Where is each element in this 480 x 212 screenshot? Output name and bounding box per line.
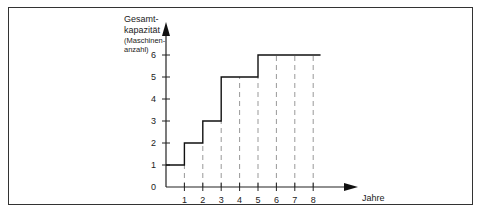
y-tick-label-6: 6 [151, 50, 156, 60]
capacity-step-path [166, 55, 321, 165]
axes [162, 22, 358, 191]
x-tick-label-3: 3 [219, 195, 224, 205]
y-tick-label-1: 1 [151, 160, 156, 170]
y-tick-label-4: 4 [151, 94, 156, 104]
capacity-step-line [166, 55, 321, 165]
x-tick-label-5: 5 [255, 195, 260, 205]
x-tick-label-2: 2 [200, 195, 205, 205]
x-axis-title: Jahre [362, 193, 385, 203]
x-tick-label-6: 6 [274, 195, 279, 205]
x-tick-label-4: 4 [237, 195, 242, 205]
x-tick-label-8: 8 [311, 195, 316, 205]
y-tick-label-3: 3 [151, 116, 156, 126]
x-axis-arrow-icon [344, 183, 358, 191]
y-axis-arrow-icon [162, 22, 170, 36]
tick-labels: 123456780123456Jahre [151, 50, 385, 205]
y-tick-label-0: 0 [151, 182, 156, 192]
y-tick-label-5: 5 [151, 72, 156, 82]
x-tick-label-1: 1 [182, 195, 187, 205]
step-chart: 123456780123456Jahre [0, 0, 480, 212]
x-tick-label-7: 7 [292, 195, 297, 205]
y-tick-label-2: 2 [151, 138, 156, 148]
